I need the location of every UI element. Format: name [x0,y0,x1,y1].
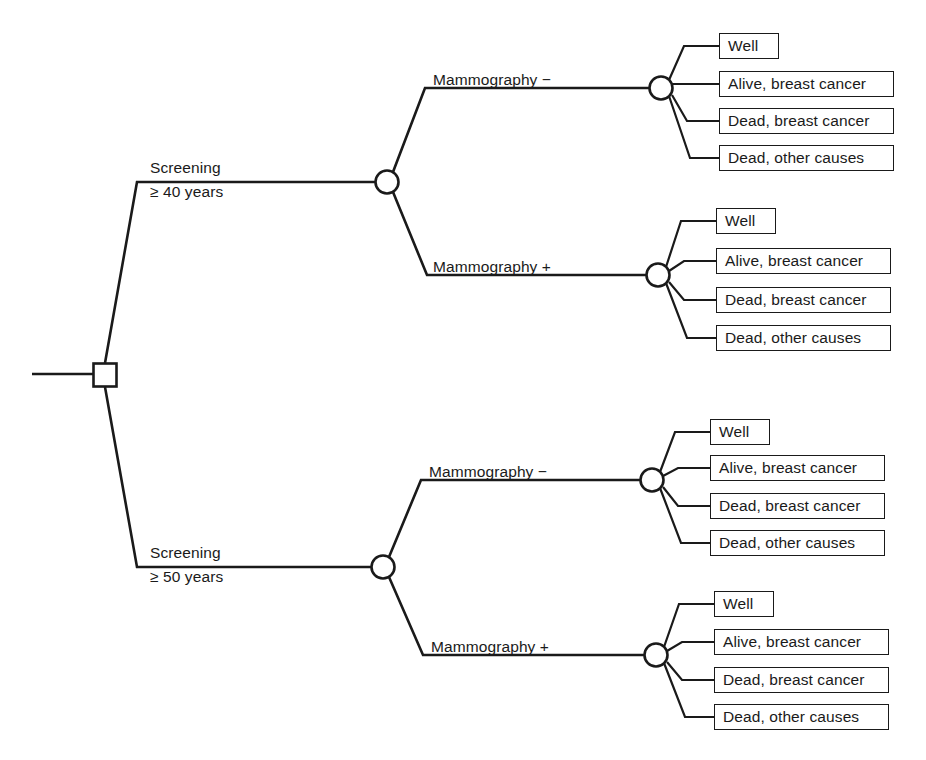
outcome-box-1-well[interactable]: Well [719,33,779,59]
edge-mammography-negative-40 [393,88,650,172]
edge-outcome-4-dead-breast-cancer [667,662,715,680]
edge-outcome-3-dead-other-causes [660,488,711,543]
outcome-box-3-dead-other-causes[interactable]: Dead, other causes [710,530,885,556]
branch-label-mammography-negative-50: Mammography − [429,462,547,481]
outcome-box-4-dead-other-causes[interactable]: Dead, other causes [714,704,889,730]
outcome-box-1-dead-breast-cancer[interactable]: Dead, breast cancer [719,108,894,134]
branch-label-screening-40-line1: Screening [150,156,223,180]
branch-label-mammography-negative-40: Mammography − [433,70,551,89]
edge-outcome-2-dead-breast-cancer [669,282,717,300]
chance-node-screening-40[interactable] [376,171,399,194]
edge-outcome-4-dead-other-causes [664,663,715,717]
edge-outcome-1-well [669,46,720,80]
outcome-box-2-dead-breast-cancer[interactable]: Dead, breast cancer [716,287,891,313]
edge-outcome-3-dead-breast-cancer [663,487,711,506]
outcome-box-4-alive-breast-cancer[interactable]: Alive, breast cancer [714,629,889,655]
edge-screening-40 [105,182,376,363]
chance-node-screening-50[interactable] [372,556,395,579]
outcome-box-1-dead-other-causes[interactable]: Dead, other causes [719,145,894,171]
branch-label-screening-50-line1: Screening [150,541,223,565]
outcome-box-3-dead-breast-cancer[interactable]: Dead, breast cancer [710,493,885,519]
outcome-box-2-alive-breast-cancer[interactable]: Alive, breast cancer [716,248,891,274]
outcome-box-3-well[interactable]: Well [710,419,770,445]
edge-outcome-3-well [660,432,711,472]
decision-tree-diagram: Screening ≥ 40 years Screening ≥ 50 year… [0,0,926,760]
branch-label-screening-40-line2: ≥ 40 years [150,180,223,204]
edge-mammography-negative-50 [389,480,641,557]
edge-outcome-4-alive-breast-cancer [667,642,715,651]
branch-label-screening-40: Screening ≥ 40 years [150,156,223,204]
outcome-box-2-dead-other-causes[interactable]: Dead, other causes [716,325,891,351]
edge-outcome-1-dead-other-causes [669,96,720,158]
root-decision-node[interactable] [94,364,117,387]
branch-label-mammography-positive-40: Mammography + [433,257,551,276]
outcome-box-4-dead-breast-cancer[interactable]: Dead, breast cancer [714,667,889,693]
branch-label-mammography-positive-50: Mammography + [431,637,549,656]
branch-label-screening-50-line2: ≥ 50 years [150,565,223,589]
outcome-box-3-alive-breast-cancer[interactable]: Alive, breast cancer [710,455,885,481]
branch-label-screening-50: Screening ≥ 50 years [150,541,223,589]
edge-screening-50 [105,387,372,567]
edge-outcome-3-alive-breast-cancer [663,468,711,476]
edge-outcome-4-well [664,604,715,647]
outcome-box-2-well[interactable]: Well [716,208,776,234]
edge-outcome-2-alive-breast-cancer [669,261,717,271]
edge-outcome-2-dead-other-causes [666,283,717,338]
edge-outcome-1-dead-breast-cancer [672,95,720,121]
outcome-box-4-well[interactable]: Well [714,591,774,617]
outcome-box-1-alive-breast-cancer[interactable]: Alive, breast cancer [719,71,894,97]
